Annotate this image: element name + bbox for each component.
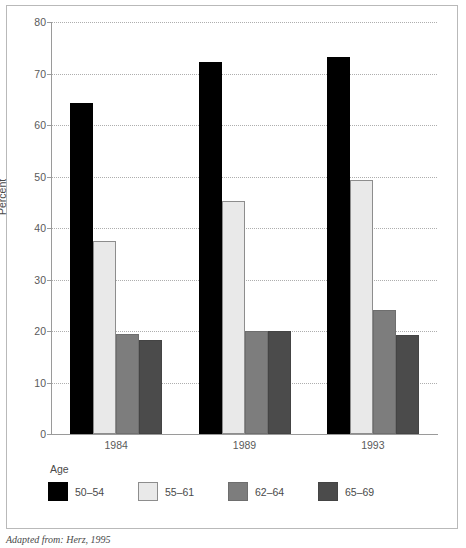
bar (327, 57, 350, 434)
bar (199, 62, 222, 434)
bar (373, 310, 396, 434)
y-tick-label: 60 (6, 120, 46, 131)
x-tick-label: 1989 (215, 440, 275, 451)
bar (268, 331, 291, 435)
x-tick-label: 1993 (343, 440, 403, 451)
legend-label: 50–54 (75, 486, 104, 498)
bar (396, 335, 419, 434)
legend-label: 62–64 (255, 486, 284, 498)
y-tick-label: 40 (6, 223, 46, 234)
bar (350, 180, 373, 434)
bar-group (52, 22, 437, 434)
bar (222, 201, 245, 434)
legend-label: 55–61 (165, 486, 194, 498)
legend-swatch-icon (318, 482, 338, 501)
bar (93, 241, 116, 434)
y-tick-label: 70 (6, 69, 46, 80)
y-axis-ticks: 01020304050607080 (0, 0, 46, 548)
y-tick-label: 80 (6, 17, 46, 28)
y-tick-label: 0 (6, 429, 46, 440)
legend-swatch-icon (138, 482, 158, 501)
bar (70, 103, 93, 434)
y-axis-title: Percent (0, 179, 8, 215)
x-tick-label: 1984 (86, 440, 146, 451)
legend: Age 50–5455–6162–6465–69 (48, 463, 408, 518)
y-tick-label: 10 (6, 378, 46, 389)
bar (116, 334, 139, 434)
bar (139, 340, 162, 434)
legend-label: 65–69 (345, 486, 374, 498)
legend-title: Age (50, 463, 69, 475)
y-tick-label: 30 (6, 275, 46, 286)
legend-swatch-icon (48, 482, 68, 501)
y-tick-label: 50 (6, 172, 46, 183)
figure-container: 01020304050607080 Percent 198419891993 A… (0, 0, 466, 548)
x-axis-line (52, 434, 438, 435)
y-tick-label: 20 (6, 326, 46, 337)
source-note: Adapted from: Herz, 1995 (6, 534, 111, 545)
legend-swatch-icon (228, 482, 248, 501)
bar (245, 331, 268, 435)
